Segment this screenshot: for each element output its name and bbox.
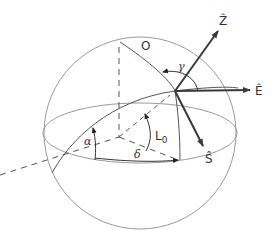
east-label: Ê — [255, 83, 263, 98]
origin-label: O — [141, 39, 150, 53]
sphere-outline — [44, 37, 236, 229]
delta-label: δ — [134, 148, 141, 161]
east-vector — [175, 90, 250, 91]
latitude-label: L0 — [155, 129, 168, 145]
celestial-sphere-diagram: Ẑ Ê Ŝ O γ α δ L0 — [0, 0, 276, 241]
gamma-label: γ — [178, 60, 185, 73]
south-label: Ŝ — [205, 151, 213, 166]
dashed-line-right — [119, 137, 178, 160]
latitude-arc — [145, 114, 150, 151]
dashed-line-left — [0, 137, 119, 175]
latitude-label-sub: 0 — [162, 135, 168, 145]
alpha-arc — [93, 128, 96, 160]
zenith-label: Ẑ — [219, 13, 227, 28]
alpha-label: α — [84, 135, 92, 148]
dashed-line-center — [119, 95, 170, 137]
